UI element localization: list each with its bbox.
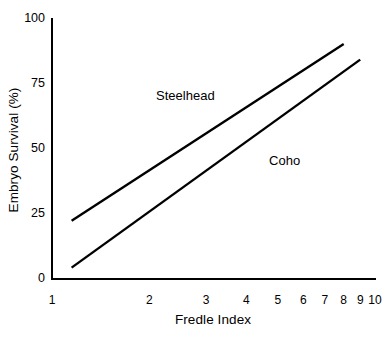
x-axis-title: Fredle Index bbox=[51, 312, 375, 327]
series-label-coho: Coho bbox=[269, 153, 300, 168]
chart-figure: Embryo Survival (%) 0255075100 123456789… bbox=[0, 0, 387, 339]
series-label-steelhead: Steelhead bbox=[156, 88, 215, 103]
series-annotations: SteelheadCoho bbox=[0, 0, 387, 339]
